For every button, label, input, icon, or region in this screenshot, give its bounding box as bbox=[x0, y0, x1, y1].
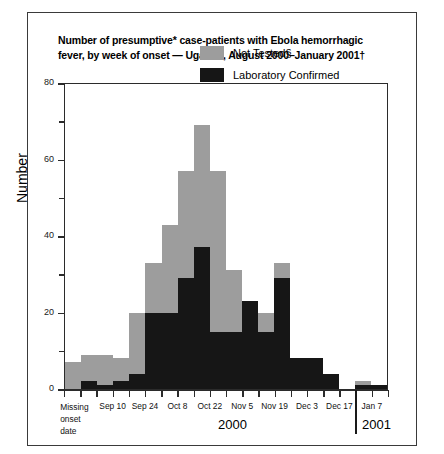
bar-column bbox=[194, 84, 210, 389]
y-tick-label: 20 bbox=[28, 307, 54, 317]
bar-segment-not-tested bbox=[113, 358, 129, 381]
bar-segment-lab-confirmed bbox=[113, 381, 129, 389]
x-tick bbox=[275, 390, 276, 397]
x-tick bbox=[372, 390, 373, 397]
bar-segment-lab-confirmed bbox=[178, 278, 194, 389]
legend-swatch-not-tested bbox=[200, 46, 224, 60]
bar-segment-not-tested bbox=[145, 263, 161, 313]
x-tick bbox=[210, 390, 211, 397]
bar-column bbox=[97, 84, 113, 389]
bar-segment-lab-confirmed bbox=[81, 381, 97, 389]
bar-column bbox=[81, 84, 97, 389]
bar-segment-lab-confirmed bbox=[258, 332, 274, 389]
bar-segment-lab-confirmed bbox=[145, 313, 161, 390]
x-tick bbox=[226, 390, 227, 397]
bar-column bbox=[226, 84, 242, 389]
year-label-2001: 2001 bbox=[362, 417, 391, 432]
bar-column bbox=[210, 84, 226, 389]
bar-segment-lab-confirmed bbox=[226, 332, 242, 389]
bar-segment-lab-confirmed bbox=[290, 358, 306, 389]
bar-column bbox=[129, 84, 145, 389]
bar-segment-lab-confirmed bbox=[274, 278, 290, 389]
bar-column bbox=[242, 84, 258, 389]
bar-series bbox=[65, 84, 387, 389]
legend-label-lab-confirmed: Laboratory Confirmed bbox=[233, 69, 339, 81]
bar-segment-not-tested bbox=[194, 125, 210, 247]
x-tick bbox=[339, 390, 340, 397]
bar-column bbox=[323, 84, 339, 389]
chart-legend: Not Tested§ Laboratory Confirmed bbox=[200, 46, 339, 90]
legend-label-not-tested: Not Tested§ bbox=[233, 47, 292, 59]
x-tick bbox=[307, 390, 308, 397]
bar-segment-not-tested bbox=[81, 355, 97, 382]
bar-column bbox=[178, 84, 194, 389]
bar-segment-not-tested bbox=[129, 313, 145, 374]
bar-column bbox=[371, 84, 387, 389]
x-tick bbox=[258, 390, 259, 397]
bar-segment-not-tested bbox=[258, 313, 274, 332]
x-tick bbox=[177, 390, 178, 397]
legend-item-lab-confirmed: Laboratory Confirmed bbox=[200, 68, 339, 82]
x-tick bbox=[64, 390, 65, 397]
bar-column bbox=[65, 84, 81, 389]
year-separator bbox=[355, 390, 357, 434]
bar-segment-not-tested bbox=[97, 355, 113, 386]
x-tick bbox=[96, 390, 97, 397]
year-label-2000: 2000 bbox=[218, 417, 247, 432]
legend-swatch-lab-confirmed bbox=[200, 68, 224, 82]
x-tick bbox=[145, 390, 146, 397]
bar-column bbox=[306, 84, 322, 389]
plot-wrapper: Number 020406080 MissingonsetdateSep 10S… bbox=[28, 13, 418, 447]
bar-segment-not-tested bbox=[226, 270, 242, 331]
figure-panel: Number of presumptive* case-patients wit… bbox=[27, 12, 417, 446]
x-tick bbox=[113, 390, 114, 397]
bar-segment-lab-confirmed bbox=[129, 374, 145, 389]
y-tick-label: 60 bbox=[28, 154, 54, 164]
x-tick bbox=[323, 390, 324, 397]
bar-segment-lab-confirmed bbox=[162, 313, 178, 390]
bar-column bbox=[274, 84, 290, 389]
bar-segment-not-tested bbox=[65, 362, 81, 389]
x-tick bbox=[129, 390, 130, 397]
y-tick-label: 0 bbox=[28, 383, 54, 393]
bar-column bbox=[145, 84, 161, 389]
x-tick bbox=[194, 390, 195, 397]
x-tick bbox=[388, 390, 389, 397]
bar-segment-lab-confirmed bbox=[306, 358, 322, 389]
bar-segment-lab-confirmed bbox=[194, 247, 210, 389]
x-tick-label: Jan 7 bbox=[352, 401, 392, 411]
plot-area bbox=[64, 83, 388, 389]
bar-segment-not-tested bbox=[162, 225, 178, 313]
bar-column bbox=[162, 84, 178, 389]
bar-column bbox=[290, 84, 306, 389]
bar-segment-not-tested bbox=[210, 171, 226, 332]
y-tick-label: 80 bbox=[28, 77, 54, 87]
y-tick-label: 40 bbox=[28, 230, 54, 240]
x-tick bbox=[161, 390, 162, 397]
bar-segment-lab-confirmed bbox=[323, 374, 339, 389]
x-tick bbox=[291, 390, 292, 397]
bar-segment-lab-confirmed bbox=[242, 301, 258, 389]
bar-column bbox=[113, 84, 129, 389]
bar-segment-lab-confirmed bbox=[210, 332, 226, 389]
x-tick bbox=[242, 390, 243, 397]
bar-column bbox=[258, 84, 274, 389]
bar-segment-not-tested bbox=[274, 263, 290, 278]
bar-segment-not-tested bbox=[178, 171, 194, 278]
bar-column bbox=[339, 84, 355, 389]
bar-column bbox=[355, 84, 371, 389]
legend-item-not-tested: Not Tested§ bbox=[200, 46, 339, 60]
x-tick bbox=[80, 390, 81, 397]
